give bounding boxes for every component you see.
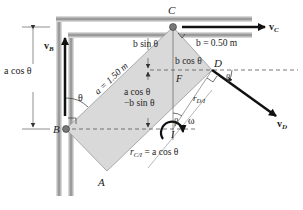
label-beta-D: β [226,72,231,82]
label-theta: θ [78,92,83,103]
pin-B [63,126,70,133]
velocity-arrow-D [212,70,276,116]
label-b-cos: b cos θ [175,56,202,66]
label-a-cos-minus-1: a cos θ [124,87,151,97]
label-D: D [213,57,222,69]
label-r-DI: rD/I [193,93,206,104]
outer-vertical-wall [56,16,62,196]
label-B: B [53,123,60,135]
label-vD: vD [277,118,287,131]
label-left-a-cos: a cos θ [4,65,32,76]
label-b-length: b = 0.50 m [196,38,238,48]
label-r-CI: rC/I = a cos θ [130,147,179,158]
label-omega: ω [188,115,195,126]
label-a-cos-minus-2: −b sin θ [124,98,155,108]
label-F: F [175,73,183,84]
label-A: A [97,176,105,188]
right-angle-D [207,76,217,82]
kinematics-diagram: C B D A F I vB vC vD a cos θ a = 1.50 m … [0,0,303,210]
label-beta-I: β [174,116,179,126]
label-I: I [170,129,175,140]
label-vB: vB [44,40,54,53]
label-C: C [168,4,176,16]
outer-horizontal-wall [56,16,252,22]
inner-vertical-wall [68,32,74,196]
label-b-sin: b sin θ [133,39,159,49]
pin-C [170,24,177,31]
label-vC: vC [269,21,279,34]
